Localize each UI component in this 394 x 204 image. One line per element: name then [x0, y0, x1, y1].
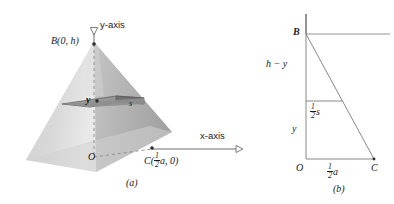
point-c-fraction: 12 — [154, 152, 160, 169]
point-c-prefix: C( — [144, 155, 154, 166]
panel-b-lower-segment-label: y — [292, 124, 296, 134]
panel-b-hypotenuse — [306, 34, 374, 159]
x-axis-label: x-axis — [200, 131, 225, 141]
point-c-frac-denominator: 2 — [154, 161, 160, 169]
slab-height-label-y: y — [86, 95, 90, 105]
panel-b-base-denominator: 2 — [327, 172, 333, 180]
point-c-label: C(12a, 0) — [144, 152, 178, 169]
panel-b-half-side-suffix: s — [316, 106, 320, 117]
point-c-marker — [150, 146, 154, 150]
panel-b-half-side-denominator: 2 — [310, 112, 316, 120]
slab-side-label-s: s — [129, 99, 132, 108]
panel-b-base-label: 12a — [327, 163, 338, 180]
panel-b-upper-segment-label: h − y — [266, 59, 287, 69]
apex-label-b: B(0, h) — [51, 36, 79, 46]
caption-a: (a) — [126, 178, 138, 188]
x-axis-arrowhead-icon — [236, 146, 243, 153]
point-b-marker — [92, 42, 96, 46]
panel-b-base-fraction: 12 — [327, 163, 333, 180]
point-c-suffix: a, 0) — [160, 155, 178, 166]
panel-b-corner-label-c: C — [371, 163, 378, 173]
caption-b: (b) — [333, 184, 345, 194]
origin-label-a: O — [88, 152, 95, 162]
y-axis-label: y-axis — [100, 20, 125, 30]
panel-b-origin-label: O — [296, 163, 303, 173]
panel-b-half-side-label: 12s — [310, 103, 320, 120]
figure-container: y-axis B(0, h) x-axis O C(12a, 0) y s (a… — [0, 0, 394, 204]
panel-b-triangle — [306, 14, 390, 160]
panel-b-base-suffix: a — [333, 166, 338, 177]
slab-center-marker — [95, 99, 99, 103]
panel-b-half-side-fraction: 12 — [310, 103, 316, 120]
panel-b-apex-label-b: B — [293, 27, 300, 37]
panel-b-point-c-marker — [373, 158, 376, 161]
